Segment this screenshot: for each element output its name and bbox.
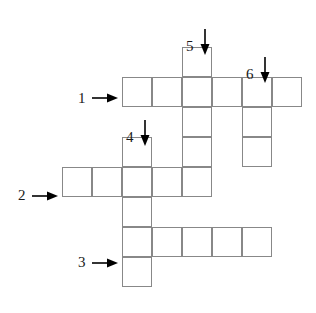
- grid-cell[interactable]: [122, 167, 152, 197]
- grid-cell[interactable]: [152, 167, 182, 197]
- grid-cell[interactable]: [242, 107, 272, 137]
- grid-cell[interactable]: [152, 227, 182, 257]
- clue-number-6: 6: [246, 67, 254, 82]
- grid-cell[interactable]: [62, 167, 92, 197]
- arrow-across-3: [92, 257, 118, 269]
- arrow-down-6: [259, 57, 271, 83]
- grid-cell[interactable]: [242, 227, 272, 257]
- grid-cell[interactable]: [122, 257, 152, 287]
- grid-cell[interactable]: [182, 167, 212, 197]
- grid-cell[interactable]: [122, 77, 152, 107]
- grid-cell[interactable]: [242, 137, 272, 167]
- clue-number-2: 2: [18, 188, 26, 203]
- arrow-down-5: [199, 29, 211, 55]
- clue-number-4: 4: [126, 130, 134, 145]
- grid-cell[interactable]: [182, 107, 212, 137]
- arrow-across-1: [92, 92, 118, 104]
- clue-number-1: 1: [78, 91, 86, 106]
- grid-cell[interactable]: [122, 227, 152, 257]
- crossword-puzzle: 123456: [0, 0, 316, 313]
- clue-number-5: 5: [186, 39, 194, 54]
- grid-cell[interactable]: [182, 77, 212, 107]
- grid-cell[interactable]: [212, 77, 242, 107]
- arrow-down-4: [139, 120, 151, 146]
- grid-cell[interactable]: [272, 77, 302, 107]
- grid-cell[interactable]: [182, 137, 212, 167]
- grid-cell[interactable]: [92, 167, 122, 197]
- grid-cell[interactable]: [182, 227, 212, 257]
- clue-number-3: 3: [78, 255, 86, 270]
- grid-cell[interactable]: [212, 227, 242, 257]
- arrow-across-2: [32, 190, 58, 202]
- grid-cell[interactable]: [122, 197, 152, 227]
- grid-cell[interactable]: [152, 77, 182, 107]
